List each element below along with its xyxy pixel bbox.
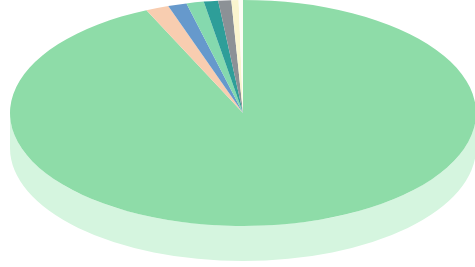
pie-top-faces: Slice 1 93.2%Slice 2 1.6%Slice 3 1.3%Sli… <box>10 0 475 226</box>
pie-chart-svg: Slice 1 93.2%Slice 2 1.6%Slice 3 1.3%Sli… <box>0 0 475 267</box>
chart-container: Slice 1 93.2%Slice 2 1.6%Slice 3 1.3%Sli… <box>0 0 475 267</box>
